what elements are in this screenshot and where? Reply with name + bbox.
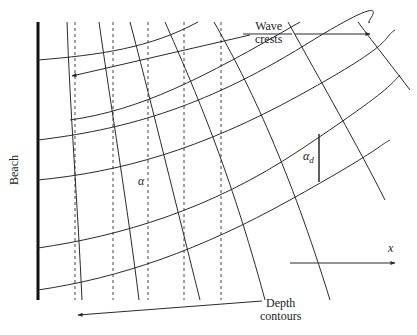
wave-crest-lines <box>67 22 410 300</box>
bottom-ray-arrows <box>78 301 262 315</box>
wave-ray-lines <box>38 11 400 290</box>
diagram-canvas <box>0 0 417 335</box>
alpha-d-label: αd <box>303 150 314 167</box>
x-axis-label: x <box>388 242 393 255</box>
beach-label: Beach <box>7 155 22 185</box>
depth-contours-label: Depth contours <box>260 297 301 323</box>
depth-contours <box>75 22 221 300</box>
alpha-label: α <box>138 175 144 188</box>
wave-refraction-diagram: Wave crests Depth contours Beach α αd x <box>0 0 417 335</box>
wave-crests-label: Wave crests <box>255 20 282 46</box>
